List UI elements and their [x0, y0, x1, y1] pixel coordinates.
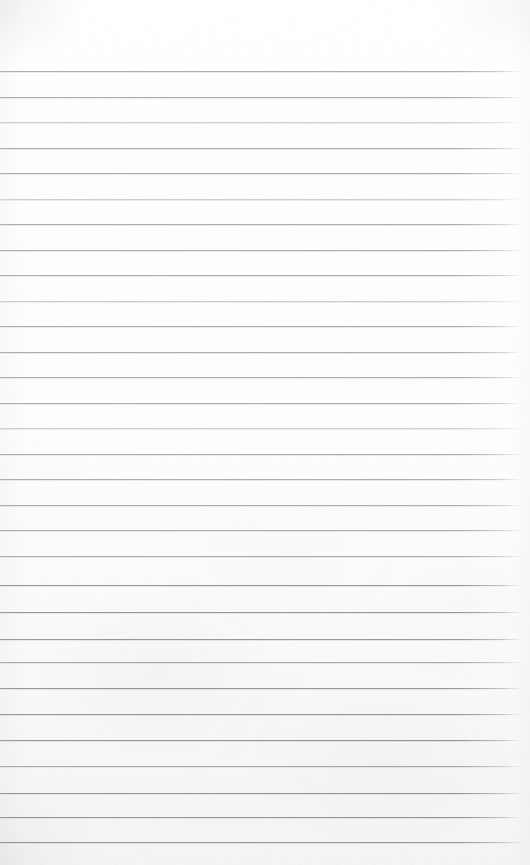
rule-line: [0, 688, 522, 689]
rule-line: [0, 148, 522, 149]
rule-line: [0, 842, 522, 843]
rule-line: [0, 454, 522, 455]
rule-line: [0, 585, 522, 586]
rule-line: [0, 530, 522, 531]
rule-line: [0, 326, 522, 327]
notepad-page: [0, 0, 530, 865]
rule-line: [0, 662, 522, 663]
rule-line: [0, 505, 522, 506]
rule-line: [0, 71, 522, 72]
rule-line: [0, 403, 522, 404]
rule-line: [0, 122, 522, 123]
rule-line: [0, 817, 522, 818]
ruled-lines-group: [0, 0, 530, 865]
rule-line: [0, 740, 522, 741]
rule-line: [0, 428, 522, 429]
rule-line: [0, 224, 522, 225]
rule-line: [0, 275, 522, 276]
rule-line: [0, 301, 522, 302]
rule-line: [0, 173, 522, 174]
rule-line: [0, 639, 522, 640]
rule-line: [0, 766, 522, 767]
rule-line: [0, 352, 522, 353]
rule-line: [0, 479, 522, 480]
rule-line: [0, 97, 522, 98]
writing-area[interactable]: [0, 0, 530, 865]
rule-line: [0, 556, 522, 557]
rule-line: [0, 199, 522, 200]
rule-line: [0, 793, 522, 794]
rule-line: [0, 250, 522, 251]
rule-line: [0, 377, 522, 378]
rule-line: [0, 714, 522, 715]
rule-line: [0, 612, 522, 613]
